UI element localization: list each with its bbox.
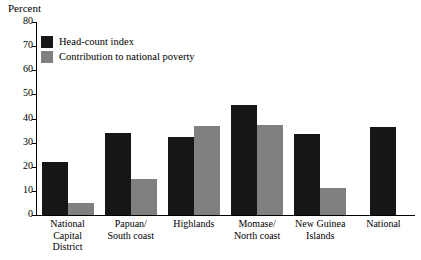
x-axis-line	[36, 215, 415, 216]
bar	[320, 188, 346, 215]
y-tick-label: 40	[3, 112, 33, 123]
chart-legend: Head-count indexContribution to national…	[41, 36, 195, 66]
legend-label: Head-count index	[59, 36, 134, 48]
y-tick-label: 20	[3, 160, 33, 171]
bar-chart: Percent 01020304050607080 National Capit…	[0, 0, 421, 260]
legend-item: Contribution to national poverty	[41, 51, 195, 63]
black-square-icon	[41, 36, 53, 48]
bar	[131, 179, 157, 215]
bar	[194, 126, 220, 215]
y-tick-label: 10	[3, 184, 33, 195]
y-tick-label: 50	[3, 87, 33, 98]
bar	[42, 162, 68, 215]
y-tick-label: 30	[3, 136, 33, 147]
legend-item: Head-count index	[41, 36, 195, 48]
bar	[294, 134, 320, 215]
bar-group	[352, 22, 415, 215]
gray-square-icon	[41, 51, 53, 63]
bar	[231, 105, 257, 215]
bar	[257, 125, 283, 215]
y-tick-label: 60	[3, 63, 33, 74]
bar	[370, 127, 396, 215]
y-tick-label: 70	[3, 39, 33, 50]
bar-group	[226, 22, 289, 215]
bar	[105, 133, 131, 215]
x-axis-label: National	[342, 218, 421, 230]
y-axis-title: Percent	[8, 2, 41, 14]
bar	[168, 137, 194, 215]
y-tick-label: 80	[3, 15, 33, 26]
bar	[68, 203, 94, 215]
bar-group	[289, 22, 352, 215]
legend-label: Contribution to national poverty	[59, 51, 195, 63]
